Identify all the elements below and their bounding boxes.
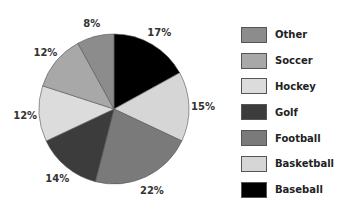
slice-label: 22%	[140, 185, 164, 196]
legend: OtherSoccerHockeyGolfFootballBasketballB…	[241, 22, 334, 203]
legend-item: Soccer	[241, 48, 334, 74]
legend-swatch	[241, 156, 267, 172]
legend-item: Other	[241, 22, 334, 48]
legend-label: Baseball	[275, 184, 323, 195]
legend-label: Football	[275, 133, 321, 144]
slice-label: 12%	[33, 47, 57, 58]
legend-label: Golf	[275, 107, 298, 118]
legend-item: Football	[241, 125, 334, 151]
legend-swatch	[241, 53, 267, 69]
legend-swatch	[241, 78, 267, 94]
slice-label: 12%	[13, 110, 37, 121]
legend-item: Baseball	[241, 177, 334, 203]
slice-label: 17%	[147, 27, 171, 38]
legend-item: Hockey	[241, 74, 334, 100]
legend-swatch	[241, 27, 267, 43]
legend-label: Basketball	[275, 158, 334, 169]
legend-item: Golf	[241, 99, 334, 125]
legend-swatch	[241, 130, 267, 146]
legend-swatch	[241, 182, 267, 198]
slice-label: 15%	[191, 101, 215, 112]
legend-swatch	[241, 104, 267, 120]
slice-label: 14%	[45, 173, 69, 184]
legend-label: Hockey	[275, 81, 316, 92]
legend-label: Other	[275, 29, 307, 40]
slice-label: 8%	[83, 18, 100, 29]
legend-item: Basketball	[241, 151, 334, 177]
legend-label: Soccer	[275, 55, 313, 66]
